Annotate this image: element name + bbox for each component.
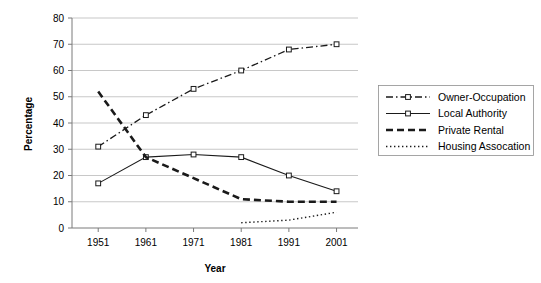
legend-label-1: Local Authority	[438, 107, 508, 119]
data-point-marker	[334, 42, 339, 47]
x-tick-labels: 195119611971198119912001	[87, 237, 348, 248]
series-line-0	[98, 44, 336, 146]
legend-label-3: Housing Assocation	[438, 140, 530, 152]
chart-legend: Owner-OccupationLocal AuthorityPrivate R…	[379, 86, 534, 156]
data-point-marker	[239, 155, 244, 160]
data-point-marker	[96, 181, 101, 186]
chart-container: 01020304050607080 1951196119711981199120…	[0, 0, 541, 283]
series-group	[96, 42, 339, 223]
legend-label-0: Owner-Occupation	[438, 91, 526, 103]
y-tick-labels: 01020304050607080	[53, 13, 65, 234]
axis-ticks	[68, 18, 337, 232]
y-tick-label: 60	[53, 65, 65, 76]
y-tick-label: 30	[53, 144, 65, 155]
legend-swatch-marker-0	[406, 95, 411, 100]
y-tick-label: 10	[53, 196, 65, 207]
x-tick-label: 2001	[325, 237, 348, 248]
legend-swatch-marker-1	[406, 111, 411, 116]
y-tick-label: 80	[53, 13, 65, 24]
series-line-3	[241, 212, 336, 223]
series-line-1	[98, 155, 336, 192]
data-point-marker	[334, 189, 339, 194]
series-line-2	[98, 92, 336, 202]
x-tick-label: 1991	[278, 237, 301, 248]
legend-label-2: Private Rental	[438, 124, 504, 136]
x-tick-label: 1951	[87, 237, 110, 248]
y-axis-title: Percentage	[23, 97, 34, 151]
x-tick-label: 1971	[182, 237, 205, 248]
line-chart: 01020304050607080 1951196119711981199120…	[0, 0, 541, 283]
y-tick-label: 20	[53, 170, 65, 181]
data-point-marker	[239, 68, 244, 73]
data-point-marker	[96, 144, 101, 149]
data-point-marker	[143, 113, 148, 118]
y-tick-label: 70	[53, 39, 65, 50]
data-point-marker	[286, 47, 291, 52]
data-point-marker	[286, 173, 291, 178]
y-tick-label: 0	[58, 223, 64, 234]
x-axis-title: Year	[204, 263, 225, 274]
x-tick-label: 1961	[135, 237, 158, 248]
y-tick-label: 50	[53, 91, 65, 102]
data-point-marker	[191, 152, 196, 157]
data-point-marker	[191, 86, 196, 91]
x-tick-label: 1981	[230, 237, 253, 248]
y-tick-label: 40	[53, 118, 65, 129]
